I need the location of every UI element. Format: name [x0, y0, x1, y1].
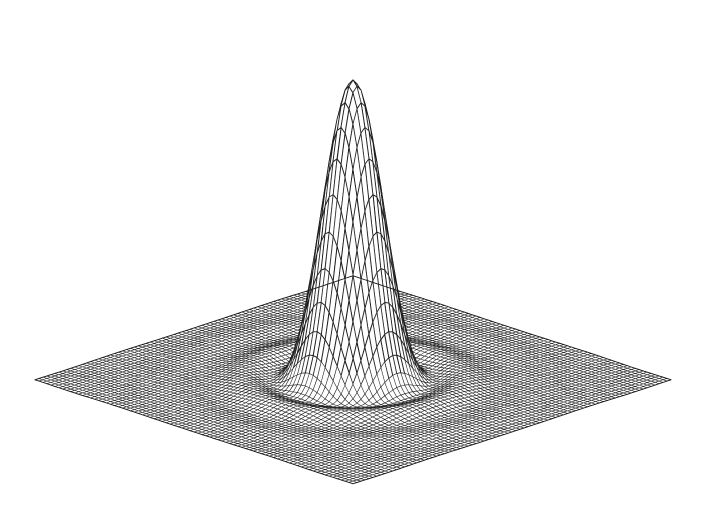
wireframe-surface-canvas — [0, 0, 702, 521]
surface-plot-figure: Black and white wireframe mesh plot of a… — [0, 0, 702, 521]
